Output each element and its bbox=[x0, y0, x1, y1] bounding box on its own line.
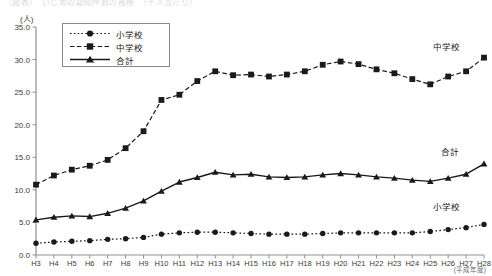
datapoint-中学校-H8 bbox=[123, 145, 129, 151]
series-小学校 bbox=[33, 222, 486, 246]
datapoint-小学校-H27 bbox=[463, 225, 468, 230]
legend-label-shogakko: 小学校 bbox=[116, 28, 143, 40]
datapoint-小学校-H5 bbox=[69, 239, 74, 244]
datapoint-中学校-H6 bbox=[87, 163, 93, 169]
datapoint-小学校-H4 bbox=[51, 239, 56, 244]
datapoint-中学校-H10 bbox=[159, 97, 165, 103]
datapoint-中学校-H7 bbox=[105, 157, 111, 163]
datapoint-中学校-H9 bbox=[141, 128, 147, 134]
legend-label-chugakko: 中学校 bbox=[116, 41, 143, 53]
datapoint-小学校-H22 bbox=[374, 230, 379, 235]
datapoint-小学校-H20 bbox=[338, 230, 343, 235]
datapoint-小学校-H17 bbox=[284, 231, 289, 236]
datapoint-合計-H10 bbox=[158, 188, 165, 194]
datapoint-合計-H9 bbox=[140, 198, 147, 204]
datapoint-中学校-H24 bbox=[409, 76, 415, 82]
legend-sample-circle-dotted bbox=[69, 28, 111, 39]
legend-item-chugakko: 中学校 bbox=[69, 40, 143, 53]
datapoint-小学校-H8 bbox=[123, 236, 128, 241]
datapoint-中学校-H13 bbox=[212, 68, 218, 74]
datapoint-小学校-H6 bbox=[87, 238, 92, 243]
legend-sample-square-dashed bbox=[69, 41, 111, 52]
datapoint-小学校-H10 bbox=[159, 231, 164, 236]
datapoint-中学校-H21 bbox=[356, 61, 362, 67]
datapoint-小学校-H16 bbox=[266, 231, 271, 236]
datapoint-中学校-H15 bbox=[248, 72, 254, 78]
datapoint-中学校-H16 bbox=[266, 74, 272, 80]
datapoint-中学校-H3 bbox=[33, 182, 39, 188]
datapoint-小学校-H14 bbox=[230, 230, 235, 235]
datapoint-小学校-H7 bbox=[105, 237, 110, 242]
legend-sample-triangle-solid bbox=[69, 54, 111, 65]
legend-label-goukei: 合計 bbox=[116, 54, 134, 66]
datapoint-中学校-H20 bbox=[338, 59, 344, 65]
datapoint-合計-H28 bbox=[481, 161, 488, 167]
datapoint-中学校-H28 bbox=[481, 55, 487, 61]
datapoint-中学校-H23 bbox=[392, 70, 398, 76]
datapoint-中学校-H19 bbox=[320, 62, 326, 68]
datapoint-中学校-H26 bbox=[445, 74, 451, 80]
chart-legend: 小学校 中学校 合計 bbox=[62, 23, 170, 67]
datapoint-小学校-H21 bbox=[356, 230, 361, 235]
datapoint-中学校-H11 bbox=[176, 92, 182, 98]
datapoint-中学校-H22 bbox=[374, 66, 380, 72]
datapoint-小学校-H25 bbox=[428, 229, 433, 234]
datapoint-中学校-H12 bbox=[194, 78, 200, 84]
datapoint-小学校-H26 bbox=[445, 227, 450, 232]
inline-label-chugakko: 中学校 bbox=[433, 40, 460, 52]
datapoint-小学校-H9 bbox=[141, 235, 146, 240]
datapoint-小学校-H15 bbox=[248, 231, 253, 236]
datapoint-小学校-H13 bbox=[213, 230, 218, 235]
datapoint-小学校-H24 bbox=[410, 230, 415, 235]
datapoint-小学校-H28 bbox=[481, 222, 486, 227]
datapoint-中学校-H25 bbox=[427, 81, 433, 87]
datapoint-中学校-H17 bbox=[284, 72, 290, 78]
datapoint-小学校-H23 bbox=[392, 230, 397, 235]
datapoint-小学校-H11 bbox=[177, 230, 182, 235]
inline-label-goukei: 合計 bbox=[441, 145, 459, 157]
datapoint-中学校-H18 bbox=[302, 68, 308, 74]
datapoint-中学校-H4 bbox=[51, 173, 57, 179]
legend-item-shogakko: 小学校 bbox=[69, 27, 143, 40]
series-合計 bbox=[33, 161, 488, 223]
datapoint-中学校-H14 bbox=[230, 72, 236, 78]
datapoint-合計-H27 bbox=[463, 171, 470, 177]
datapoint-中学校-H27 bbox=[463, 68, 469, 74]
datapoint-小学校-H18 bbox=[302, 231, 307, 236]
datapoint-小学校-H19 bbox=[320, 231, 325, 236]
series-中学校 bbox=[33, 55, 487, 188]
inline-label-shogakko: 小学校 bbox=[433, 200, 460, 212]
datapoint-小学校-H12 bbox=[195, 230, 200, 235]
datapoint-中学校-H5 bbox=[69, 167, 75, 173]
datapoint-小学校-H3 bbox=[33, 241, 38, 246]
legend-item-goukei: 合計 bbox=[69, 53, 134, 66]
data-series-layer bbox=[33, 55, 488, 246]
